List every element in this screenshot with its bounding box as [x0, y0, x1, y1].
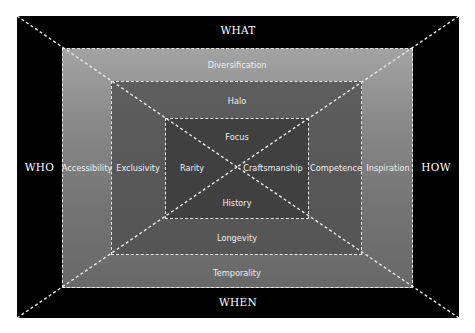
label-inspiration: Inspiration [366, 163, 409, 173]
label-exclusivity: Exclusivity [116, 163, 160, 173]
label-rarity: Rarity [180, 163, 204, 173]
label-competence: Competence [310, 163, 362, 173]
dimension-label-when: WHEN [17, 296, 459, 308]
diagram-canvas: WHAT WHEN WHO HOW Diversification Tempor… [0, 0, 475, 333]
label-diversification: Diversification [208, 60, 267, 70]
label-halo: Halo [228, 96, 246, 106]
label-focus: Focus [225, 132, 248, 142]
label-accessibility: Accessibility [62, 163, 112, 173]
label-temporality: Temporality [213, 268, 261, 278]
dimension-label-what: WHAT [17, 24, 459, 36]
label-history: History [222, 198, 251, 208]
dimension-label-how: HOW [413, 161, 459, 173]
label-craftsmanship: Craftsmanship [243, 163, 302, 173]
dimension-label-who: WHO [17, 161, 62, 173]
label-longevity: Longevity [217, 233, 257, 243]
